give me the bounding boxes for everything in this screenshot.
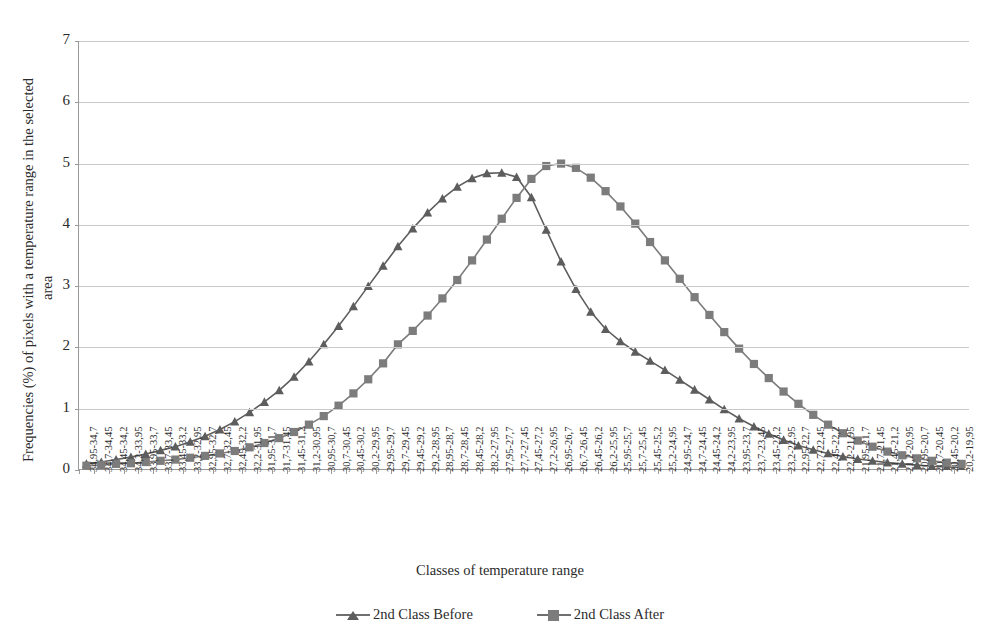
square-marker-icon [537,608,571,622]
x-tick-label: 29,2-28,95 [431,427,442,473]
x-tick-label: 21,7-21,45 [876,427,887,473]
x-tick-label: 29,7-29,45 [401,427,412,473]
x-tick-label: 23,2-22,95 [787,427,798,473]
x-tick-label: 33,45-33,2 [178,427,189,473]
data-point-square [483,235,491,243]
gridline [79,41,969,42]
y-tick-mark [75,102,79,103]
data-point-square [438,294,446,302]
x-tick-label: 25,95-25,7 [623,427,634,473]
x-tick-label: 28,7-28,45 [460,427,471,473]
data-point-triangle [586,307,595,316]
data-point-square [423,311,431,319]
legend-label-before: 2nd Class Before [373,606,473,623]
legend-item-after[interactable]: 2nd Class After [537,606,664,623]
data-point-triangle [690,385,699,394]
x-tick-label: 26,2-25,95 [609,427,620,473]
x-tick-label: 23,7-23,45 [757,427,768,473]
x-tick-label: 21,45-21,2 [890,427,901,473]
gridline [79,102,969,103]
x-tick-label: 22,45-22,2 [831,427,842,473]
x-tick-label: 25,7-25,45 [638,427,649,473]
x-tick-label: 25,2-24,95 [668,427,679,473]
x-tick-label: 24,45-24,2 [712,427,723,473]
x-tick-label: 22,95-22,7 [801,427,812,473]
series-line [86,164,961,466]
x-tick-label: 32,45-32,2 [238,427,249,473]
x-axis-tick-labels: 34,95-34,734,7-34,4534,45-34,234,2-33,95… [78,472,968,558]
data-point-square [601,187,609,195]
y-tick-mark [75,347,79,348]
x-tick-label: 33,2-32,95 [193,427,204,473]
data-point-square [572,164,580,172]
data-point-square [750,360,758,368]
data-point-triangle [556,257,565,266]
gridline [79,164,969,165]
x-tick-label: 21,2-20,95 [905,427,916,473]
data-point-triangle [230,417,239,426]
gridline [79,409,969,410]
gridline [79,347,969,348]
series-before [82,168,966,470]
x-tick-label: 22,2-21,95 [846,427,857,473]
data-point-square [735,345,743,353]
x-tick-label: 24,2-23,95 [727,427,738,473]
data-point-triangle [675,375,684,384]
data-point-square [587,174,595,182]
x-tick-label: 26,45-26,2 [594,427,605,473]
x-tick-label: 22,7-22,45 [816,427,827,473]
y-tick-mark [75,409,79,410]
x-tick-label: 24,95-24,7 [683,427,694,473]
series-plot [79,41,969,470]
x-tick-label: 32,7-32,45 [223,427,234,473]
x-tick-label: 30,2-29,95 [371,427,382,473]
x-tick-label: 20,7-20,45 [935,427,946,473]
data-point-square [794,400,802,408]
data-point-square [705,311,713,319]
data-point-square [349,389,357,397]
x-tick-label: 29,45-29,2 [416,427,427,473]
x-tick-label: 27,95-27,7 [505,427,516,473]
data-point-square [409,327,417,335]
data-point-triangle [660,366,669,375]
chart-legend: 2nd Class Before 2nd Class After [0,606,1000,623]
x-tick-label: 27,2-26,95 [549,427,560,473]
x-tick-label: 26,7-26,45 [579,427,590,473]
x-tick-label: 31,95-31,7 [267,427,278,473]
data-point-square [690,293,698,301]
x-tick-label: 20,45-20,2 [950,427,961,473]
x-tick-label: 32,2-31,95 [253,427,264,473]
y-tick-label: 3 [48,276,70,293]
y-tick-label: 4 [48,215,70,232]
x-tick-label: 31,7-31,45 [282,427,293,473]
x-tick-label: 34,95-34,7 [89,427,100,473]
data-point-square [468,256,476,264]
y-tick-label: 5 [48,154,70,171]
data-point-triangle [734,414,743,423]
x-tick-label: 30,95-30,7 [327,427,338,473]
x-tick-label: 20,95-20,7 [920,427,931,473]
data-point-square [512,194,520,202]
x-tick-label: 33,95-33,7 [149,427,160,473]
y-tick-label: 2 [48,337,70,354]
data-point-square [379,359,387,367]
x-tick-label: 31,2-30,95 [312,427,323,473]
x-tick-label: 31,45-31,2 [297,427,308,473]
x-tick-label: 34,2-33,95 [134,427,145,473]
y-tick-label: 0 [48,460,70,477]
data-point-square [616,202,624,210]
legend-item-before[interactable]: 2nd Class Before [336,606,473,623]
data-point-square [765,374,773,382]
x-tick-label: 21,95-21,7 [861,427,872,473]
chart-figure: Frequencies (%) of pixels with a tempera… [0,0,1000,643]
data-point-square [720,328,728,336]
data-point-triangle [705,395,714,404]
data-point-square [527,175,535,183]
data-point-square [661,256,669,264]
x-tick-label: 24,7-24,45 [698,427,709,473]
x-tick-label: 30,45-30,2 [356,427,367,473]
x-tick-label: 28,2-27,95 [490,427,501,473]
y-tick-label: 7 [48,31,70,48]
x-tick-label: 27,45-27,2 [534,427,545,473]
data-point-square [453,276,461,284]
